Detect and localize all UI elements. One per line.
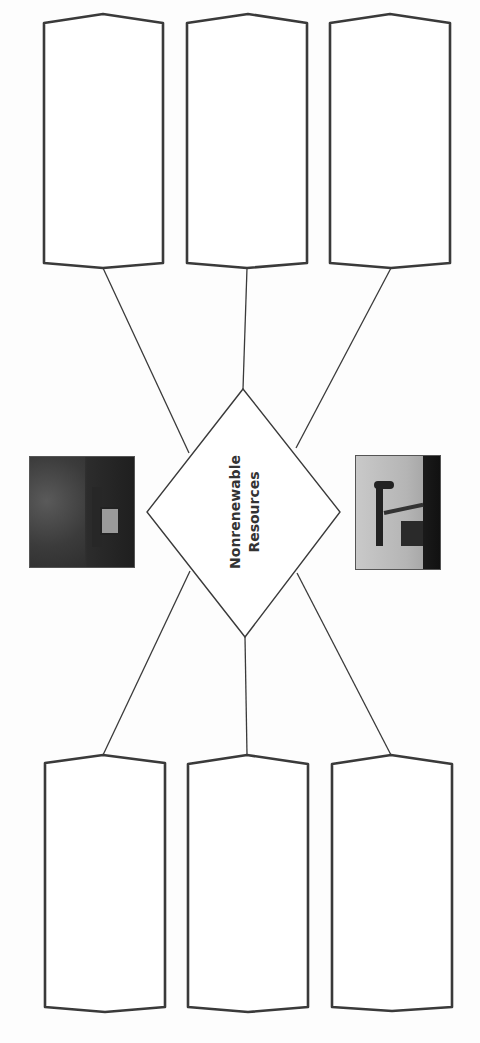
mining-photo [29, 456, 135, 568]
box-bottom-middle[interactable] [188, 755, 308, 1012]
box-bottom-right[interactable] [332, 755, 452, 1011]
graphic-organizer-page: Nonrenewable Resources [0, 0, 480, 1043]
pumpjack-beam [376, 486, 383, 546]
rock-wall [30, 457, 85, 567]
connector-bottom-right [297, 573, 391, 755]
box-bottom-left[interactable] [45, 755, 165, 1012]
center-label-line2: Resources [245, 455, 264, 569]
center-label: Nonrenewable Resources [226, 455, 264, 569]
connector-top-right [296, 268, 391, 448]
connector-bottom-middle [245, 637, 247, 755]
connector-top-left [103, 268, 189, 453]
center-label-line1: Nonrenewable [226, 455, 245, 569]
connector-bottom-left [103, 571, 190, 755]
oil-pump-photo [355, 455, 441, 570]
connector-top-middle [243, 268, 247, 389]
box-top-middle[interactable] [187, 14, 307, 268]
pumpjack-head [374, 481, 394, 489]
mining-machine [100, 507, 120, 535]
box-top-right[interactable] [330, 14, 450, 268]
box-top-left[interactable] [44, 14, 163, 268]
pumpjack-base [401, 521, 423, 546]
pumpjack-arm [384, 503, 424, 515]
